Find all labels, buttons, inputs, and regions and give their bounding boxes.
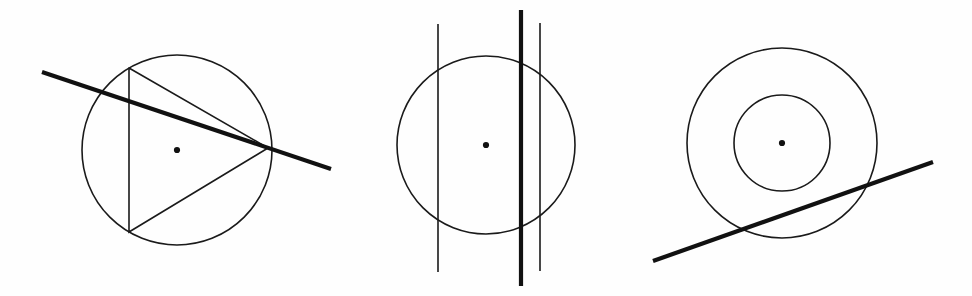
figure-1-center-dot (174, 147, 180, 153)
figure-1-group (42, 55, 331, 245)
figure-1-secant-line (42, 72, 331, 169)
figure-2-center-dot (483, 142, 489, 148)
figure-3-group (653, 48, 933, 261)
figure-2-group (397, 10, 575, 286)
figure-3-center-dot (779, 140, 785, 146)
figure-sheet (0, 0, 972, 296)
figure-3-secant-line (653, 162, 933, 261)
figure-1-inscribed-triangle (129, 68, 268, 232)
geometry-diagram-canvas (0, 0, 972, 296)
